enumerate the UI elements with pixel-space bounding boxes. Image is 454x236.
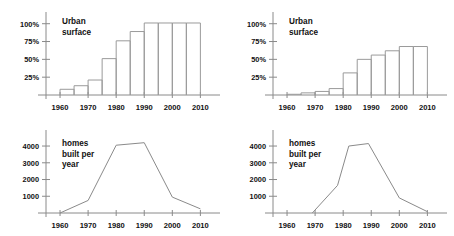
y-tick-label: 4000 <box>250 142 266 151</box>
x-tick-label: 1990 <box>136 103 153 112</box>
bar-column <box>315 91 329 95</box>
bar-column <box>74 86 88 95</box>
y-tick-label: 50% <box>251 55 266 64</box>
x-tick-label: 1980 <box>108 221 125 230</box>
bar-column <box>116 41 130 95</box>
panel-urban-surface-right: 25%50%75%100%196019701980199020002010Urb… <box>227 0 454 118</box>
y-tick-label: 4000 <box>23 142 39 151</box>
x-tick-label: 1970 <box>80 221 97 230</box>
x-tick-label: 2000 <box>164 221 181 230</box>
y-tick-label: 75% <box>251 37 266 46</box>
x-tick-label: 1960 <box>279 221 296 230</box>
y-tick-label: 50% <box>24 55 39 64</box>
bar-column <box>172 23 186 95</box>
bar-column <box>186 23 200 95</box>
chart-homes-built-right: 1000200030004000196019701980199020002010… <box>227 118 454 236</box>
x-tick-label: 1960 <box>279 103 296 112</box>
panel-homes-built-left: 1000200030004000196019701980199020002010… <box>0 118 227 236</box>
y-tick-label: 2000 <box>23 175 39 184</box>
bar-column <box>343 73 357 95</box>
y-tick-label: 3000 <box>23 159 39 168</box>
chart-caption-line: homes <box>62 139 89 148</box>
y-tick-label: 100% <box>247 20 266 29</box>
y-tick-label: 3000 <box>250 159 266 168</box>
chart-caption-line: Urban <box>62 17 86 26</box>
chart-caption-line: homes <box>289 139 316 148</box>
x-tick-label: 1990 <box>363 221 380 230</box>
y-tick-label: 75% <box>24 37 39 46</box>
bar-column <box>158 23 172 95</box>
x-tick-label: 1960 <box>52 221 69 230</box>
chart-caption-line: built per <box>62 150 95 159</box>
bar-column <box>385 51 399 95</box>
x-tick-label: 2010 <box>419 221 436 230</box>
panel-homes-built-right: 1000200030004000196019701980199020002010… <box>227 118 454 236</box>
data-line <box>312 144 427 213</box>
chart-caption-line: surface <box>289 28 319 37</box>
bar-column <box>413 47 427 95</box>
bar-column <box>88 80 102 95</box>
x-tick-label: 1970 <box>307 103 324 112</box>
chart-homes-built-left: 1000200030004000196019701980199020002010… <box>0 118 227 236</box>
bar-column <box>60 89 74 95</box>
y-tick-label: 25% <box>251 73 266 82</box>
x-tick-label: 1960 <box>52 103 69 112</box>
chart-urban-surface-right: 25%50%75%100%196019701980199020002010Urb… <box>227 0 454 118</box>
chart-caption-line: year <box>62 160 80 169</box>
figure-sheet: 25%50%75%100%196019701980199020002010Urb… <box>0 0 454 236</box>
y-tick-label: 1000 <box>23 192 39 201</box>
bar-column <box>371 55 385 95</box>
bar-column <box>144 23 158 95</box>
y-tick-label: 25% <box>24 73 39 82</box>
x-tick-label: 1990 <box>136 221 153 230</box>
bar-column <box>102 59 116 95</box>
panel-urban-surface-left: 25%50%75%100%196019701980199020002010Urb… <box>0 0 227 118</box>
y-tick-label: 100% <box>20 20 39 29</box>
chart-urban-surface-left: 25%50%75%100%196019701980199020002010Urb… <box>0 0 227 118</box>
x-tick-label: 2000 <box>391 221 408 230</box>
y-tick-label: 1000 <box>250 192 266 201</box>
x-tick-label: 1990 <box>363 103 380 112</box>
x-tick-label: 2010 <box>192 221 209 230</box>
x-tick-label: 2000 <box>391 103 408 112</box>
bar-column <box>399 47 413 95</box>
x-tick-label: 1970 <box>307 221 324 230</box>
chart-caption-line: Urban <box>289 17 313 26</box>
x-tick-label: 1980 <box>108 103 125 112</box>
x-tick-label: 1970 <box>80 103 97 112</box>
chart-caption-line: surface <box>62 28 92 37</box>
x-tick-label: 2000 <box>164 103 181 112</box>
bar-column <box>329 89 343 95</box>
x-tick-label: 2010 <box>192 103 209 112</box>
x-tick-label: 1980 <box>335 221 352 230</box>
y-tick-label: 2000 <box>250 175 266 184</box>
chart-caption-line: year <box>289 160 307 169</box>
bar-column <box>357 59 371 95</box>
chart-caption-line: built per <box>289 150 322 159</box>
bar-column <box>130 32 144 95</box>
x-tick-label: 1980 <box>335 103 352 112</box>
x-tick-label: 2010 <box>419 103 436 112</box>
